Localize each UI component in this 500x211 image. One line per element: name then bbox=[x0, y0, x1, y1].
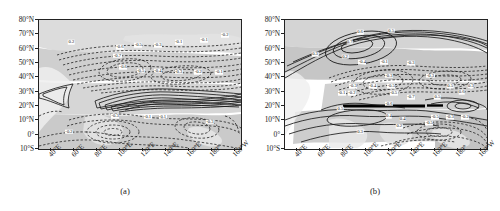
contour-label: -0.1 bbox=[338, 91, 346, 96]
contour-label: -0.5 bbox=[425, 121, 433, 126]
contour-label: -0.1 bbox=[215, 70, 223, 75]
y-tick-label: 10°N bbox=[2, 115, 34, 124]
y-tick-mark bbox=[35, 48, 38, 49]
contour-label: 0.5 bbox=[447, 84, 454, 89]
y-tick-label: 30°N bbox=[2, 86, 34, 95]
contour-label: -0.2 bbox=[221, 33, 229, 38]
y-tick-label: 30°N bbox=[248, 86, 280, 95]
y-tick-label: 20°N bbox=[2, 101, 34, 110]
y-tick-mark bbox=[281, 48, 284, 49]
panel-a: 0.2-0.2-0.1-0.1-0.3-0.5-0.6-0.7-0.6-0.5-… bbox=[0, 0, 250, 211]
panel-b-map-canvas bbox=[285, 20, 487, 149]
y-tick-mark bbox=[281, 119, 284, 120]
y-tick-mark bbox=[281, 19, 284, 20]
panel-b-caption: (b) bbox=[250, 186, 500, 196]
y-tick-mark bbox=[281, 33, 284, 34]
y-tick-label: 20°N bbox=[248, 101, 280, 110]
contour-label: -0.5 bbox=[387, 84, 395, 89]
contour-label: -0.3 bbox=[111, 114, 119, 119]
y-tick-label: 70°N bbox=[248, 29, 280, 38]
y-tick-label: 10°S bbox=[248, 144, 280, 153]
contour-label: -0.7 bbox=[113, 54, 121, 59]
contour-label: 0.5 bbox=[337, 107, 344, 112]
contour-label: -0.3 bbox=[385, 74, 393, 79]
contour-label: 0.5 bbox=[434, 95, 441, 100]
y-tick-label: 0° bbox=[2, 129, 34, 138]
contour-label: -0.4 bbox=[369, 84, 377, 89]
y-tick-label: 50°N bbox=[248, 58, 280, 67]
y-tick-label: 40°N bbox=[248, 72, 280, 81]
contour-label: -0.1 bbox=[380, 60, 388, 65]
contour-label: 0.3 bbox=[468, 84, 475, 89]
y-tick-mark bbox=[281, 134, 284, 135]
contour-label: -0.5 bbox=[137, 69, 145, 74]
panel-a-plot-area: 0.2-0.2-0.1-0.1-0.3-0.5-0.6-0.7-0.6-0.5-… bbox=[38, 19, 242, 150]
contour-label: 0.2 bbox=[396, 124, 403, 129]
contour-label: -0.1 bbox=[158, 114, 166, 119]
contour-label: -0.3 bbox=[206, 119, 214, 124]
contour-label: -0.2 bbox=[194, 70, 202, 75]
contour-label: 0.2 bbox=[342, 54, 349, 59]
contour-label: -0.6 bbox=[385, 102, 393, 107]
contour-label: 0.3 bbox=[312, 52, 319, 57]
contour-label: -0.3 bbox=[349, 84, 357, 89]
y-tick-mark bbox=[35, 119, 38, 120]
y-tick-mark bbox=[281, 62, 284, 63]
contour-label: 0.6 bbox=[357, 30, 364, 35]
contour-label: 0.4 bbox=[399, 117, 406, 122]
y-tick-mark bbox=[35, 62, 38, 63]
contour-label: -0.7 bbox=[407, 95, 415, 100]
contour-label: -0.4 bbox=[358, 60, 366, 65]
y-tick-mark bbox=[35, 19, 38, 20]
y-tick-mark bbox=[35, 105, 38, 106]
contour-label: -0.2 bbox=[348, 91, 356, 96]
contour-label: -0.6 bbox=[116, 45, 124, 50]
y-tick-label: 0° bbox=[248, 129, 280, 138]
y-tick-label: 70°N bbox=[2, 29, 34, 38]
contour-label: -0.4 bbox=[154, 69, 162, 74]
y-tick-label: 80°N bbox=[248, 15, 280, 24]
contour-label: 0.5 bbox=[388, 28, 395, 33]
contour-label: -0.1 bbox=[143, 114, 151, 119]
contour-label: 0.2 bbox=[68, 40, 75, 45]
y-tick-mark bbox=[35, 134, 38, 135]
y-tick-mark bbox=[281, 105, 284, 106]
panel-a-caption: (a) bbox=[0, 186, 250, 196]
contour-label: 0.4 bbox=[386, 114, 393, 119]
y-tick-mark bbox=[35, 33, 38, 34]
y-tick-label: 10°N bbox=[248, 115, 280, 124]
figure-container: 0.2-0.2-0.1-0.1-0.3-0.5-0.6-0.7-0.6-0.5-… bbox=[0, 0, 500, 211]
y-tick-label: 60°N bbox=[248, 43, 280, 52]
contour-label: 0.7 bbox=[346, 39, 353, 44]
contour-label: -0.2 bbox=[461, 115, 469, 120]
y-tick-label: 60°N bbox=[2, 43, 34, 52]
contour-label: -0.2 bbox=[65, 130, 73, 135]
contour-label: -0.3 bbox=[154, 43, 162, 48]
contour-label: -0.3 bbox=[175, 69, 183, 74]
y-tick-mark bbox=[35, 76, 38, 77]
contour-label: -0.1 bbox=[175, 40, 183, 45]
y-tick-label: 80°N bbox=[2, 15, 34, 24]
panel-b: 0.60.50.70.30.2-0.4-0.1-0.3-0.3-0.3-0.3-… bbox=[250, 0, 500, 211]
contour-label: -0.3 bbox=[407, 61, 415, 66]
contour-label: -0.3 bbox=[426, 74, 434, 79]
contour-label: -0.3 bbox=[446, 115, 454, 120]
contour-label: -0.5 bbox=[389, 91, 397, 96]
y-tick-mark bbox=[281, 76, 284, 77]
contour-label: -0.1 bbox=[200, 38, 208, 43]
contour-label: 0.6 bbox=[458, 90, 465, 95]
y-tick-mark bbox=[35, 91, 38, 92]
y-tick-mark bbox=[281, 91, 284, 92]
y-tick-mark bbox=[35, 148, 38, 149]
contour-label: -0.6 bbox=[119, 65, 127, 70]
contour-label: 0.3 bbox=[357, 130, 364, 135]
y-tick-mark bbox=[281, 148, 284, 149]
y-tick-label: 40°N bbox=[2, 72, 34, 81]
panel-b-plot-area: 0.60.50.70.30.2-0.4-0.1-0.3-0.3-0.3-0.3-… bbox=[284, 19, 488, 150]
y-tick-label: 10°S bbox=[2, 144, 34, 153]
y-tick-label: 50°N bbox=[2, 58, 34, 67]
contour-label: -0.5 bbox=[134, 43, 142, 48]
